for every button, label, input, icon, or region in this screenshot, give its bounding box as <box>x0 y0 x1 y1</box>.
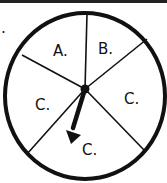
section-label-c-right: C. <box>124 90 139 108</box>
section-dividers <box>22 14 147 154</box>
divider-upper-left <box>22 55 85 89</box>
spinner-diagram: . A. B. C. C. C. <box>0 0 167 183</box>
stray-dot: . <box>1 19 6 37</box>
divider-upper-right <box>85 39 147 89</box>
divider-top <box>85 14 87 89</box>
arrow-head-icon <box>66 130 81 144</box>
top-edge-mark <box>0 0 167 3</box>
section-label-c-bottom: C. <box>82 141 97 159</box>
section-label-b: B. <box>98 40 113 58</box>
spinner-arrow[interactable] <box>66 85 90 145</box>
section-label-c-left: C. <box>35 96 50 114</box>
section-label-a: A. <box>53 42 68 60</box>
spinner-pivot <box>81 85 90 94</box>
